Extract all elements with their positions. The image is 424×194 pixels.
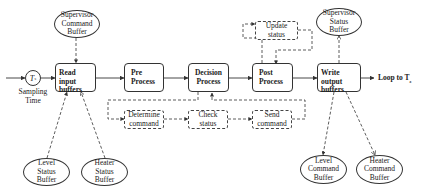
write-output-buffers-block: Write output buffers	[317, 63, 361, 92]
pre-process-block: Pre Process	[124, 63, 164, 92]
read-line2: buffers	[59, 86, 92, 95]
update-status-block: Update status	[255, 21, 298, 40]
decision-process-block: Decision Process	[188, 63, 229, 92]
write-line1: Write output	[321, 69, 357, 86]
post-process-block: Post Process	[252, 63, 293, 92]
sampling-time-node: Ts	[25, 70, 41, 86]
loop-label: Loop to Ts	[378, 74, 424, 86]
determine-command-block: Determine command	[124, 110, 164, 129]
htr-cmd-line3: Buffer	[364, 174, 395, 183]
level-command-buffer: Level Command Buffer	[300, 155, 347, 184]
check-line2: status	[189, 120, 227, 129]
loop-subscript: s	[410, 79, 412, 84]
check-status-block: Check status	[188, 110, 228, 129]
write-line2: buffers	[321, 86, 357, 95]
sampling-label-line2: Time	[10, 97, 56, 106]
loop-text: Loop to T	[378, 73, 410, 82]
send-command-block: Send command	[252, 110, 292, 129]
heater-command-buffer: Heater Command Buffer	[356, 155, 403, 184]
read-line1: Read input	[59, 69, 92, 86]
determine-line2: command	[125, 120, 163, 129]
read-input-buffers-block: Read input buffers	[55, 63, 96, 92]
send-line2: command	[253, 120, 291, 129]
update-line2: status	[256, 31, 297, 40]
level-status-buffer: Level Status Buffer	[23, 158, 70, 186]
pre-line2: Process	[131, 78, 157, 87]
sup-cmd-line3: Buffer	[61, 28, 94, 37]
sampling-subscript: s	[34, 76, 36, 81]
supervisor-status-buffer: Supervisor Status Buffer	[316, 8, 362, 36]
htr-status-line3: Buffer	[95, 176, 115, 185]
sup-status-line3: Buffer	[323, 26, 356, 35]
lvl-status-line3: Buffer	[37, 176, 56, 185]
heater-status-buffer: Heater Status Buffer	[81, 158, 128, 186]
post-line2: Process	[259, 78, 286, 87]
lvl-cmd-line3: Buffer	[308, 174, 339, 183]
sampling-time-label: Sampling Time	[10, 88, 56, 105]
decision-line2: Process	[193, 78, 224, 87]
supervisor-command-buffer: Supervisor Command Buffer	[54, 10, 100, 38]
